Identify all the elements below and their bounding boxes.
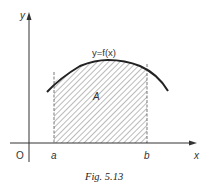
shaded-region-a <box>54 55 147 143</box>
upper-bound-label: b <box>144 150 150 161</box>
figure-caption: Fig. 5.13 <box>84 171 123 182</box>
y-axis-arrow-icon <box>27 12 32 20</box>
origin-label: O <box>16 150 24 161</box>
y-axis-label: y <box>19 10 26 21</box>
curve-label: y=f(x) <box>92 47 116 58</box>
lower-bound-label: a <box>51 150 57 161</box>
region-label: A <box>92 91 100 102</box>
x-axis-label: x <box>193 150 200 161</box>
x-axis-arrow-icon <box>189 141 197 146</box>
area-under-curve-diagram: y x O a b y=f(x) A Fig. 5.13 <box>0 0 212 185</box>
y-axis <box>27 12 32 162</box>
